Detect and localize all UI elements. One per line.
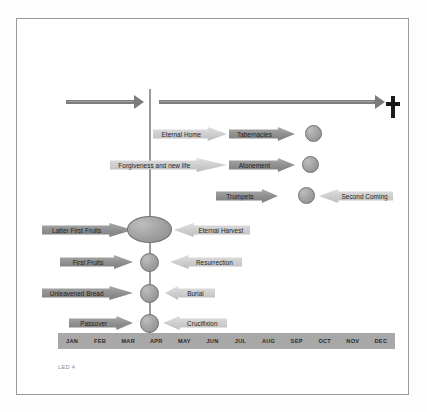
- month-label-jan: JAN: [58, 338, 86, 344]
- arrow-label: First Fruits: [60, 259, 133, 266]
- arrow-shaft: [159, 100, 375, 104]
- arrow-label: Eternal Home: [153, 131, 227, 138]
- arrow-passover[interactable]: Passover: [69, 316, 133, 330]
- month-label-sep: SEP: [283, 338, 311, 344]
- month-axis-bar: JAN FEB MAR APR MAY JUN JUL AUG SEP OCT …: [58, 333, 395, 349]
- arrow-label: Second Coming: [319, 193, 393, 200]
- arrow-latter-first-fruits[interactable]: Latter First Fruits: [42, 223, 133, 237]
- month-label-nov: NOV: [339, 338, 367, 344]
- arrow-label: Eternal Harvest: [174, 227, 250, 234]
- arrow-head: [375, 95, 385, 109]
- month-label-jun: JUN: [198, 338, 226, 344]
- month-label-aug: AUG: [255, 338, 283, 344]
- arrow-atonement[interactable]: Atonement: [229, 158, 295, 172]
- arrow-head: [134, 95, 144, 109]
- arrow-label: Burial: [165, 290, 215, 297]
- month-label-dec: DEC: [367, 338, 395, 344]
- arrow-first-fruits[interactable]: First Fruits: [60, 255, 133, 269]
- diagram-canvas: Eternal Home Tabernacles Forgiveness and…: [0, 0, 427, 412]
- diagram-frame: Eternal Home Tabernacles Forgiveness and…: [16, 18, 409, 395]
- marker-circle-tabernacles: [305, 125, 322, 142]
- arrow-tabernacles[interactable]: Tabernacles: [229, 127, 295, 141]
- cross-horizontal-bar: [386, 102, 400, 106]
- arrow-label: Unleavened Bread: [42, 290, 133, 297]
- arrow-trumpets[interactable]: Trumpets: [216, 189, 278, 203]
- month-label-mar: MAR: [114, 338, 142, 344]
- cross-icon: [386, 96, 400, 118]
- arrow-label: Crucifixion: [163, 320, 227, 327]
- arrow-burial[interactable]: Burial: [165, 286, 215, 300]
- arrow-second-coming[interactable]: Second Coming: [319, 189, 393, 203]
- arrow-crucifixion[interactable]: Crucifixion: [163, 316, 227, 330]
- arrow-resurrection[interactable]: Resurrection: [170, 255, 242, 269]
- figure-code-label: LED 4: [58, 364, 75, 370]
- arrow-label: Forgiveness and new life: [110, 162, 227, 169]
- arrow-label: Resurrection: [170, 259, 242, 266]
- before-cross-timeline-arrow: [66, 99, 144, 105]
- cross-vertical-bar: [391, 96, 395, 118]
- arrow-shaft: [66, 100, 134, 104]
- marker-circle-unleavened-bread: [140, 284, 159, 303]
- marker-circle-atonement: [302, 156, 319, 173]
- marker-circle-passover: [140, 314, 159, 333]
- arrow-eternal-harvest[interactable]: Eternal Harvest: [174, 223, 250, 237]
- arrow-eternal-home[interactable]: Eternal Home: [153, 127, 227, 141]
- arrow-label: Latter First Fruits: [42, 227, 133, 234]
- marker-ellipse-latter-first-fruits: [127, 216, 172, 243]
- arrow-label: Passover: [69, 320, 133, 327]
- month-label-may: MAY: [170, 338, 198, 344]
- marker-circle-trumpets: [298, 187, 315, 204]
- arrow-forgiveness-and-new-life[interactable]: Forgiveness and new life: [110, 158, 227, 172]
- month-label-feb: FEB: [86, 338, 114, 344]
- after-cross-timeline-arrow: [159, 99, 385, 105]
- month-label-jul: JUL: [226, 338, 254, 344]
- arrow-label: Trumpets: [216, 193, 278, 200]
- arrow-label: Tabernacles: [229, 131, 295, 138]
- cropped-header-text: [0, 0, 427, 7]
- marker-circle-first-fruits: [140, 253, 159, 272]
- arrow-unleavened-bread[interactable]: Unleavened Bread: [42, 286, 133, 300]
- arrow-label: Atonement: [229, 162, 295, 169]
- month-label-oct: OCT: [311, 338, 339, 344]
- month-label-apr: APR: [142, 338, 170, 344]
